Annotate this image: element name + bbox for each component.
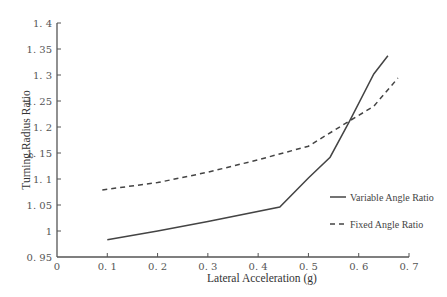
x-tick-label: 0. 4 xyxy=(249,261,268,272)
y-tick-label: 1 xyxy=(46,226,52,237)
x-tick-label: 0. 5 xyxy=(299,261,318,272)
x-tick-label: 0. 3 xyxy=(198,261,217,272)
y-tick-label: 1. 3 xyxy=(33,70,52,81)
series-line-2 xyxy=(102,78,398,190)
legend: Variable Angle RatioFixed Angle Ratio xyxy=(330,192,434,230)
y-tick-label: 1. 05 xyxy=(27,200,52,211)
x-tick-label: 0. 2 xyxy=(148,261,167,272)
axes: 00. 10. 20. 30. 40. 50. 60. 70. 9511. 05… xyxy=(27,18,419,273)
line-chart: 00. 10. 20. 30. 40. 50. 60. 70. 9511. 05… xyxy=(0,0,447,297)
y-axis-label: Turning Radius Ratio xyxy=(20,90,33,190)
x-tick-label: 0. 7 xyxy=(399,261,418,272)
y-tick-label: 1. 2 xyxy=(33,122,52,133)
y-tick-label: 1. 1 xyxy=(33,174,52,185)
series-lines xyxy=(102,56,398,240)
x-tick-label: 0. 6 xyxy=(349,261,368,272)
series-line-1 xyxy=(107,56,388,240)
legend-label: Variable Angle Ratio xyxy=(350,192,434,203)
x-axis-label: Lateral Acceleration (g) xyxy=(207,272,317,285)
legend-label: Fixed Angle Ratio xyxy=(350,219,423,230)
y-tick-label: 1. 35 xyxy=(27,44,52,55)
x-tick-label: 0 xyxy=(54,261,60,272)
y-tick-label: 1. 4 xyxy=(33,18,52,29)
x-tick-label: 0. 1 xyxy=(98,261,117,272)
y-tick-label: 0. 95 xyxy=(27,252,52,263)
chart-container: 00. 10. 20. 30. 40. 50. 60. 70. 9511. 05… xyxy=(0,0,447,297)
